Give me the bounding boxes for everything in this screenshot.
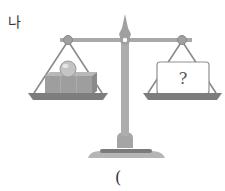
question-mark: ? <box>179 69 188 88</box>
answer-paren: ( <box>115 168 121 187</box>
right-pan: ? <box>143 36 222 101</box>
left-hinge <box>64 36 73 45</box>
scale-post <box>121 38 129 136</box>
right-hinge <box>178 36 187 45</box>
balance-scale: ? <box>0 0 225 191</box>
left-pan <box>28 36 108 101</box>
sphere <box>60 61 76 77</box>
